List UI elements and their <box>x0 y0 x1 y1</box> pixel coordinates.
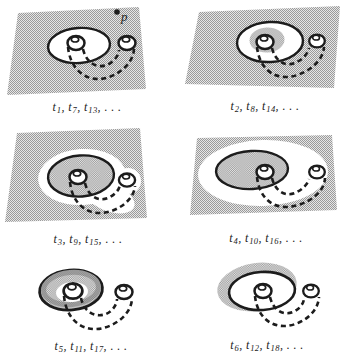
panel-6-caption: t6, t12, t18, . . . <box>192 338 342 353</box>
panel-4 <box>190 135 337 215</box>
panel-1-point-p-label: p <box>120 9 128 24</box>
figure-canvas: p <box>0 0 345 358</box>
panel-5-caption: t5, t11, t17, . . . <box>16 339 166 354</box>
panel-3 <box>5 128 147 222</box>
panel-5 <box>38 267 133 329</box>
panel-4-left-tube-mouth <box>257 165 274 179</box>
panel-6-right-tube-mouth <box>303 285 319 298</box>
panel-4-right-tube-mouth <box>309 166 325 179</box>
panel-1-left-tube-mouth <box>68 36 85 50</box>
panel-2 <box>185 6 340 88</box>
panel-4-caption: t4, t10, t16, . . . <box>191 231 341 246</box>
panel-2-right-tube-mouth <box>309 35 325 48</box>
panel-2-caption: t2, t8, t14, . . . <box>190 99 340 114</box>
panel-1-right-tube-mouth <box>119 36 136 50</box>
panel-1-caption: t1, t7, t13, . . . <box>12 100 162 115</box>
panel-5-left-tube-mouth <box>64 283 83 298</box>
panel-5-right-tube-mouth <box>116 285 133 299</box>
panel-6 <box>214 258 319 326</box>
panel-3-caption: t3, t9, t15, . . . <box>13 232 163 247</box>
figure-graphics: p <box>0 0 345 358</box>
panel-1: p <box>7 7 146 95</box>
panel-1-point-p <box>114 9 120 15</box>
panel-2-left-tube-mouth <box>257 35 274 49</box>
panel-3-left-tube-mouth <box>70 170 87 184</box>
panel-3-right-tube-mouth <box>119 173 135 186</box>
panel-6-left-tube-mouth <box>255 284 272 298</box>
